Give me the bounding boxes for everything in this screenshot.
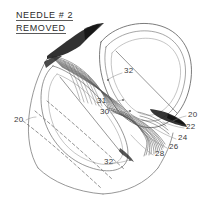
ref-numeral-30: 30: [100, 107, 110, 116]
caption-line-1: NEEDLE # 2: [16, 10, 73, 21]
ref-numeral-32-upper: 32: [124, 66, 134, 75]
ref-numeral-20-right: 20: [188, 110, 198, 119]
ref-numeral-22: 22: [186, 122, 196, 131]
ref-numeral-28: 28: [155, 149, 165, 158]
ref-numeral-32-lower: 32: [104, 157, 114, 166]
body-outline: [28, 59, 173, 194]
cusp-shading-lower-right: [119, 148, 134, 162]
ref-numeral-20-left: 20: [14, 115, 24, 124]
patent-figure: NEEDLE # 2 REMOVED 20 32 31 30 20 22 24 …: [0, 0, 208, 217]
ref-numeral-31: 31: [97, 96, 107, 105]
upper-oval-lobe: [99, 23, 191, 127]
ref-numeral-26: 26: [169, 142, 179, 151]
contour-fan-upper-left: [52, 56, 130, 116]
caption-line-2: REMOVED: [16, 23, 66, 34]
ref-numeral-24: 24: [178, 133, 188, 142]
